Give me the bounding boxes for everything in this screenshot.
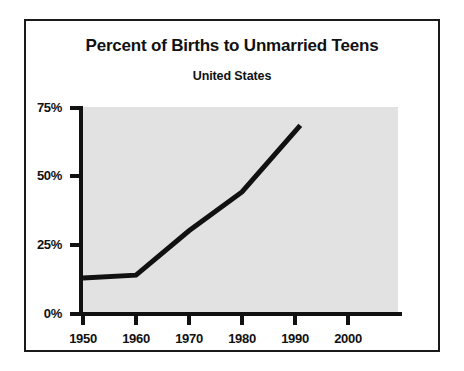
y-axis-line [79, 107, 83, 316]
y-axis-tick-50 [70, 174, 83, 178]
y-axis-label-50: 50% [0, 168, 62, 183]
x-axis-label-1950: 1950 [53, 331, 113, 346]
chart-subtitle: United States [26, 69, 438, 83]
chart-frame: Percent of Births to Unmarried Teens Uni… [24, 19, 440, 352]
y-axis-tick-75 [70, 106, 83, 110]
x-axis-tick-1990 [293, 314, 297, 325]
x-axis-label-1970: 1970 [159, 331, 219, 346]
y-axis-label-25: 25% [0, 237, 62, 252]
plot-area [82, 107, 398, 314]
x-axis-label-1990: 1990 [265, 331, 325, 346]
x-axis-tick-1970 [187, 314, 191, 325]
y-axis-label-0: 0% [0, 306, 62, 321]
chart-title: Percent of Births to Unmarried Teens [26, 36, 438, 56]
x-axis-tick-1980 [240, 314, 244, 325]
x-axis-tick-2000 [346, 314, 350, 325]
y-axis-label-75: 75% [0, 100, 62, 115]
x-axis-label-1980: 1980 [212, 331, 272, 346]
x-axis-label-2000: 2000 [318, 331, 378, 346]
y-axis-tick-25 [70, 243, 83, 247]
x-axis-tick-1950 [81, 314, 85, 325]
x-axis-label-1960: 1960 [106, 331, 166, 346]
x-axis-tick-1960 [134, 314, 138, 325]
